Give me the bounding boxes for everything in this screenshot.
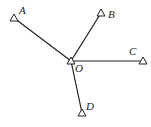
label-c: C <box>129 45 137 57</box>
survey-diagram: ABCDO <box>0 0 151 127</box>
segment-o-b <box>71 13 101 61</box>
segment-o-a <box>14 18 71 61</box>
point-d-triangle-icon <box>78 109 86 116</box>
label-o: O <box>75 62 83 74</box>
point-a-triangle-icon <box>10 14 18 21</box>
label-d: D <box>85 100 94 112</box>
point-b-triangle-icon <box>97 9 105 16</box>
label-a: A <box>18 4 26 16</box>
label-b: B <box>108 8 115 20</box>
